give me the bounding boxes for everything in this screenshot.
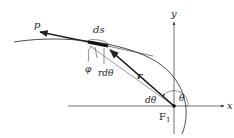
ds-label: ds [93, 24, 105, 35]
r-dtheta-label: rdθ [98, 68, 114, 78]
ds-segment [88, 42, 108, 46]
dtheta-label: dθ [145, 95, 157, 105]
y-axis-label: y [170, 8, 177, 19]
r-dtheta-tick-left [95, 47, 97, 58]
phi-label: φ [85, 64, 92, 74]
phi-angle-mark [88, 46, 91, 62]
r-label: r [137, 70, 143, 81]
focus-label-sub: 1 [166, 116, 170, 124]
focus-label-main: F [159, 111, 166, 122]
p-label: p [34, 19, 41, 30]
orbit-diagram: p ds φ rdθ r dθ θ x y F1 [0, 0, 234, 138]
focus-point [172, 104, 176, 108]
theta-label: θ [179, 93, 185, 103]
focus-label: F1 [159, 111, 170, 124]
x-axis-label: x [227, 100, 233, 111]
